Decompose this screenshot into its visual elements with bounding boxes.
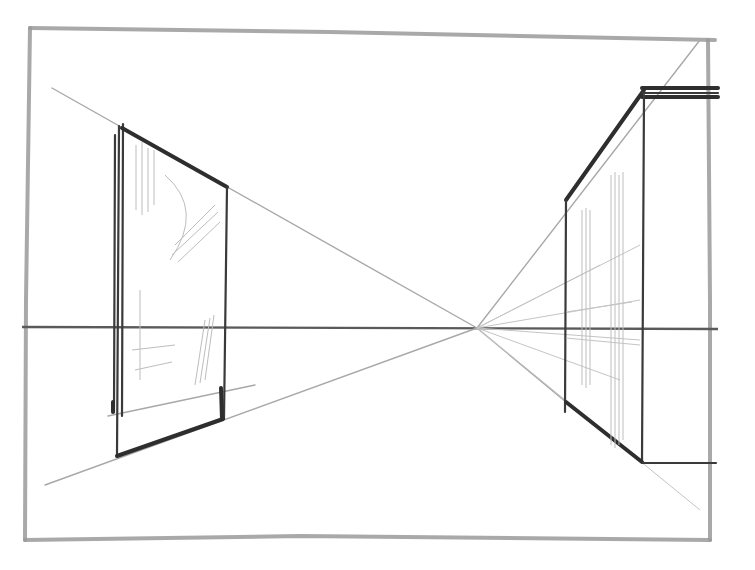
left-wall — [113, 124, 227, 456]
horizon-line — [22, 327, 718, 329]
perspective-sketch — [0, 0, 755, 570]
right-wall — [565, 88, 718, 463]
perspective-guides — [45, 40, 700, 510]
